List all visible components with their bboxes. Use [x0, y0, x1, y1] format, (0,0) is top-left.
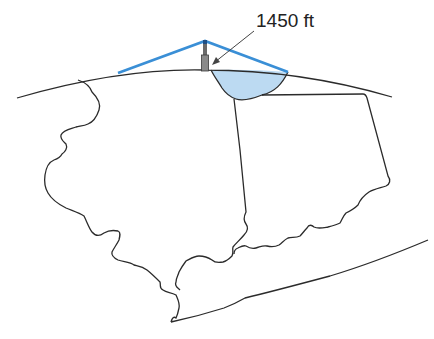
annotation-arrow: [212, 31, 254, 65]
state-outline-middle: [175, 99, 247, 290]
antenna-tower: [202, 40, 209, 71]
diagram-canvas: [0, 0, 434, 339]
tower-height-label: 1450 ft: [256, 10, 314, 32]
state-outline-right: [234, 94, 390, 254]
coastline: [171, 240, 428, 322]
state-outline-left: [45, 80, 180, 322]
